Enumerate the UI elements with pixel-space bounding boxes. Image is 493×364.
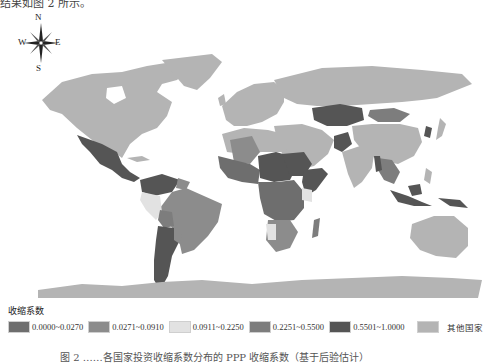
- region-australia: [410, 216, 468, 258]
- legend-label-2: 0.0271~0.0910: [112, 322, 163, 332]
- region-korea: [424, 126, 432, 138]
- region-bolivia: [158, 210, 174, 228]
- world-map: [22, 40, 482, 298]
- region-mongolia: [368, 108, 410, 122]
- legend-swatch-4: [249, 321, 271, 333]
- region-guyana: [176, 178, 190, 190]
- region-japan: [436, 118, 446, 140]
- legend-item-6: 其他国家: [409, 321, 486, 333]
- header-partial-text: 结果如图 2 所示。: [0, 0, 91, 10]
- legend-label-5: 0.5501~1.0000: [353, 322, 404, 332]
- region-uk: [218, 94, 226, 106]
- region-peru-ecuador: [140, 192, 162, 220]
- region-north-america: [42, 62, 187, 158]
- region-europe: [222, 82, 284, 126]
- region-central-africa: [258, 180, 304, 222]
- region-philippines: [424, 168, 432, 184]
- legend-swatch-3: [169, 321, 191, 333]
- legend-swatch-1: [8, 321, 30, 333]
- figure-caption: 图 2 ……各国家投资收缩系数分布的 PPP 收缩系数（基于后验估计）: [60, 349, 369, 364]
- legend-title: 收缩系数: [8, 304, 44, 317]
- region-madagascar: [312, 218, 320, 238]
- legend-item-1: 0.0000~0.0270: [8, 321, 86, 333]
- legend-swatch-5: [329, 321, 351, 333]
- region-pakistan: [334, 132, 352, 152]
- legend-item-4: 0.2251~0.5500: [249, 321, 327, 333]
- region-russia: [274, 66, 472, 106]
- legend-swatch-2: [88, 321, 110, 333]
- region-india: [342, 146, 374, 188]
- legend-item-5: 0.5501~1.0000: [329, 321, 407, 333]
- legend-label-1: 0.0000~0.0270: [32, 322, 83, 332]
- legend-label-6: 其他国家: [447, 321, 483, 333]
- legend-item-3: 0.0911~0.2250: [169, 321, 247, 333]
- region-borneo: [408, 184, 422, 196]
- region-kazakhstan: [312, 104, 364, 126]
- region-antarctica: [38, 276, 482, 298]
- compass-north-label: N: [35, 12, 42, 22]
- legend-label-3: 0.0911~0.2250: [193, 322, 244, 332]
- legend-label-4: 0.2251~0.5500: [273, 322, 324, 332]
- legend-swatch-6: [417, 321, 439, 333]
- legend-item-2: 0.0271~0.0910: [88, 321, 166, 333]
- region-png: [438, 198, 468, 208]
- legend: 0.0000~0.0270 0.0271~0.0910 0.0911~0.225…: [8, 321, 488, 333]
- region-kenya: [302, 188, 312, 202]
